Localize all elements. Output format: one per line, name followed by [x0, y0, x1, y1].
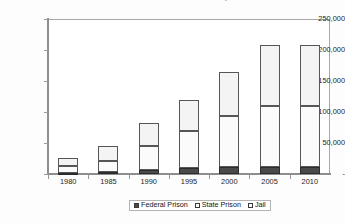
federal-swatch	[134, 203, 139, 208]
x-tick-label: 2010	[288, 177, 332, 186]
incarcerated-women-chart: NUMBER OF INCARCERATED WOMEN, 1980-2010 …	[0, 0, 345, 224]
legend-label: State Prison	[202, 201, 241, 209]
y-tick-mark	[44, 143, 48, 144]
bar-segment-jail	[139, 123, 159, 147]
bar-segment-federal-prison	[98, 172, 118, 174]
bar-segment-federal-prison	[300, 167, 320, 174]
y-tick-mark	[44, 50, 48, 51]
x-tick-mark	[290, 175, 291, 179]
bar-segment-jail	[219, 72, 239, 117]
bar-1985	[98, 19, 118, 174]
bar-segment-state-prison	[98, 161, 118, 172]
y-tick-mark	[44, 112, 48, 113]
bar-1990	[139, 19, 159, 174]
bar-segment-state-prison	[260, 106, 280, 167]
bar-segment-state-prison	[139, 146, 159, 170]
x-tick-label: 1985	[86, 177, 130, 186]
bar-segment-jail	[300, 45, 320, 106]
chart-legend: Federal PrisonState PrisonJail	[129, 200, 271, 211]
bar-segment-jail	[260, 45, 280, 106]
bar-segment-federal-prison	[58, 173, 78, 175]
bar-segment-federal-prison	[260, 167, 280, 174]
bar-segment-jail	[98, 146, 118, 161]
bar-segment-jail	[58, 158, 78, 166]
x-tick-mark	[209, 175, 210, 179]
y-tick-mark	[44, 81, 48, 82]
bar-2010	[300, 19, 320, 174]
x-tick-label: 1995	[167, 177, 211, 186]
legend-entry-state-prison: State Prison	[195, 201, 241, 209]
x-tick-mark	[48, 175, 49, 179]
x-tick-label: 1980	[46, 177, 90, 186]
x-tick-label: 1990	[127, 177, 171, 186]
bar-1995	[179, 19, 199, 174]
y-tick-mark	[44, 19, 48, 20]
x-tick-mark	[249, 175, 250, 179]
bar-segment-state-prison	[219, 116, 239, 167]
bar-segment-jail	[179, 100, 199, 131]
chart-title: NUMBER OF INCARCERATED WOMEN, 1980-2010	[6, 0, 338, 3]
x-tick-mark	[88, 175, 89, 179]
bar-1980	[58, 19, 78, 174]
bar-segment-federal-prison	[179, 168, 199, 174]
bar-2000	[219, 19, 239, 174]
x-tick-label: 2000	[207, 177, 251, 186]
legend-entry-jail: Jail	[248, 201, 266, 209]
jail-swatch	[248, 203, 253, 208]
bar-segment-federal-prison	[219, 167, 239, 174]
x-tick-label: 2005	[248, 177, 292, 186]
legend-label: Jail	[255, 201, 266, 209]
y-axis-line	[47, 18, 49, 175]
x-tick-mark	[129, 175, 130, 179]
legend-label: Federal Prison	[141, 201, 188, 209]
bar-segment-federal-prison	[139, 170, 159, 174]
legend-entry-federal-prison: Federal Prison	[134, 201, 188, 209]
state-swatch	[195, 203, 200, 208]
x-tick-mark	[169, 175, 170, 179]
bar-segment-state-prison	[58, 166, 78, 173]
bar-segment-state-prison	[300, 106, 320, 167]
bar-2005	[260, 19, 280, 174]
bar-segment-state-prison	[179, 131, 199, 169]
